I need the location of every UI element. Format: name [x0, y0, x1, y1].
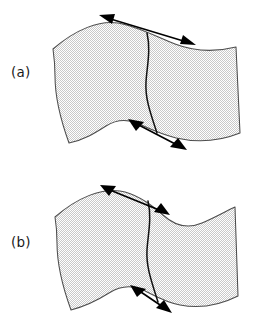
- panel-a-diagram: [0, 0, 275, 165]
- figure-panel-b: (b): [0, 165, 275, 330]
- top-arrow-head-right-a: [180, 35, 196, 45]
- panel-b-diagram: [0, 165, 275, 330]
- figure-root: (a): [0, 0, 275, 331]
- figure-panel-a: (a): [0, 0, 275, 165]
